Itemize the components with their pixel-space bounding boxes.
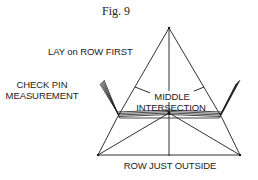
figure-diagram: Fig. 9 LAY on ROW FIRST CHECK PIN MEASUR…: [0, 0, 258, 180]
label-lay-on-row-first: LAY on ROW FIRST: [48, 46, 133, 57]
label-row-just-outside: ROW JUST OUTSIDE: [117, 160, 223, 171]
figure-caption: Fig. 9: [86, 4, 146, 19]
apex-pin-icon: [168, 27, 170, 29]
label-middle: MIDDLE: [150, 91, 194, 102]
label-check-pin-measurement: CHECK PIN MEASUREMENT: [0, 79, 90, 101]
label-measurement: MEASUREMENT: [0, 90, 90, 101]
label-check-pin: CHECK PIN: [0, 79, 90, 90]
label-intersection: INTERSECTION: [127, 102, 215, 113]
right-corner-pin-icon: [239, 154, 241, 156]
left-corner-pin-icon: [97, 154, 99, 156]
